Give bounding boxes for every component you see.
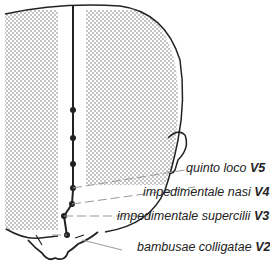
head-diagram — [0, 0, 270, 269]
label-v5: quinto loco V5 — [186, 161, 265, 175]
label-v5-code: V5 — [250, 161, 265, 175]
label-v3-code: V3 — [254, 209, 269, 223]
label-v3: impedimentale supercilii V3 — [117, 209, 269, 223]
label-v4: impedimentale nasi V4 — [143, 185, 269, 199]
label-v5-name: quinto loco — [186, 161, 246, 175]
label-v2-name: bambusae colligatae — [137, 240, 252, 254]
brow-left — [6, 229, 58, 238]
label-v4-code: V4 — [254, 185, 269, 199]
label-v2: bambusae colligatae V2 — [137, 240, 270, 254]
nose-outline — [28, 232, 98, 259]
label-v4-name: impedimentale nasi — [143, 185, 251, 199]
label-v2-code: V2 — [255, 240, 270, 254]
label-v3-name: impedimentale supercilii — [117, 209, 250, 223]
